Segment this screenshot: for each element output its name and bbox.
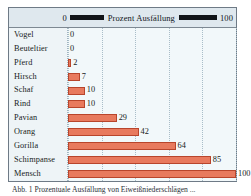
bar-value-label: 42 <box>139 128 149 136</box>
bar[interactable] <box>68 100 85 108</box>
bar[interactable] <box>68 73 80 81</box>
category-axis-labels: Vogel Beuteltier Pferd Hirsch Schaf Rind… <box>9 28 67 181</box>
axis-row: Schimpanse <box>14 153 67 167</box>
category-label: Pferd <box>14 59 32 67</box>
axis-row: Vogel <box>14 28 67 42</box>
category-label: Orang <box>14 128 35 136</box>
bar-row: 85 <box>68 153 236 167</box>
axis-row: Orang <box>14 125 67 139</box>
category-label: Pavian <box>14 114 37 122</box>
bar-value-label: 64 <box>176 142 186 150</box>
chart-figure: 0 Prozent Ausfällung 100 Vogel Beuteltie… <box>8 7 237 182</box>
bar-value-label: 2 <box>71 59 77 67</box>
legend-inner: 0 Prozent Ausfällung 100 <box>62 13 233 23</box>
bar-series: 0027101029426485100 <box>68 28 236 181</box>
category-label: Hirsch <box>14 73 37 81</box>
axis-row: Hirsch <box>14 70 67 84</box>
category-label: Vogel <box>14 31 34 39</box>
axis-row: Pferd <box>14 56 67 70</box>
bar-value-label: 7 <box>80 73 86 81</box>
category-label: Schaf <box>14 86 33 94</box>
axis-row: Gorilla <box>14 139 67 153</box>
bar-value-label: 10 <box>85 86 95 94</box>
axis-row: Rind <box>14 98 67 112</box>
plot-area: 0027101029426485100 <box>67 28 236 181</box>
legend-title: Prozent Ausfällung <box>107 13 176 23</box>
axis-row: Schaf <box>14 84 67 98</box>
legend-max-label: 100 <box>220 13 233 23</box>
category-label: Schimpanse <box>14 156 55 164</box>
chart-legend-band: 0 Prozent Ausfällung 100 <box>9 8 236 28</box>
bar[interactable] <box>68 170 236 178</box>
bar-row: 10 <box>68 84 236 98</box>
axis-row: Beuteltier <box>14 42 67 56</box>
category-label: Beuteltier <box>14 45 48 53</box>
category-label: Gorilla <box>14 142 38 150</box>
axis-row: Pavian <box>14 111 67 125</box>
bar-row: 42 <box>68 125 236 139</box>
bar-row: 0 <box>68 42 236 56</box>
bar-row: 7 <box>68 70 236 84</box>
bar-value-label: 29 <box>117 114 127 122</box>
category-label: Mensch <box>14 170 41 178</box>
gridline <box>236 28 237 181</box>
category-label: Rind <box>14 100 31 108</box>
chart-body: Vogel Beuteltier Pferd Hirsch Schaf Rind… <box>9 28 236 181</box>
bar-row: 64 <box>68 139 236 153</box>
axis-row: Mensch <box>14 167 67 181</box>
bar[interactable] <box>68 128 139 136</box>
bar[interactable] <box>68 156 211 164</box>
legend-rule-right-icon <box>179 15 217 20</box>
bar[interactable] <box>68 114 117 122</box>
bar-row: 10 <box>68 98 236 112</box>
bar-row: 2 <box>68 56 236 70</box>
bar-row: 29 <box>68 111 236 125</box>
legend-min-label: 0 <box>62 13 66 23</box>
legend-rule-left-icon <box>70 15 104 20</box>
bar-value-label: 100 <box>236 170 245 178</box>
figure-caption: Abb. 1 Prozentuale Ausfällung von Eiweiß… <box>12 184 240 196</box>
bar-row: 0 <box>68 28 236 42</box>
bar-value-label: 10 <box>85 100 95 108</box>
bar[interactable] <box>68 142 176 150</box>
bar-value-label: 0 <box>68 31 74 39</box>
bar[interactable] <box>68 87 85 95</box>
bar-row: 100 <box>68 167 236 181</box>
bar-value-label: 0 <box>68 45 74 53</box>
bar-value-label: 85 <box>211 156 221 164</box>
